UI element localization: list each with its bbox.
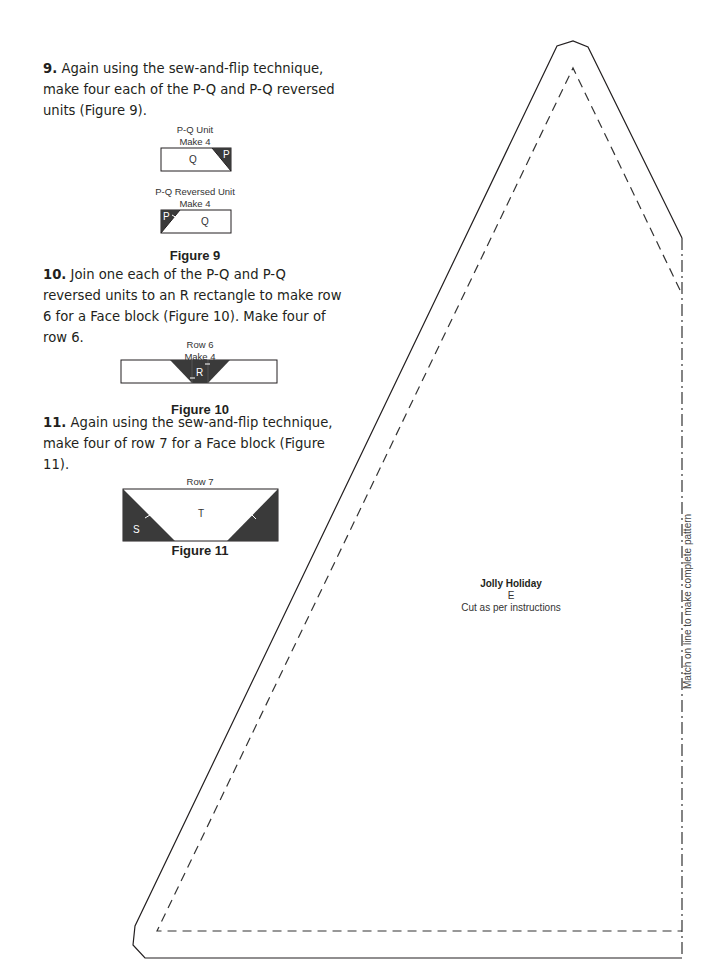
svg-text:T: T <box>198 508 204 519</box>
pq-reversed-diagram: P Q <box>161 210 231 233</box>
svg-text:P: P <box>163 211 170 222</box>
p-label: P <box>223 149 230 160</box>
row7-diagram: T S <box>123 489 278 541</box>
q-label: Q <box>189 154 197 165</box>
pattern-instruction: Cut as per instructions <box>421 602 601 614</box>
row6-diagram: R <box>121 360 277 383</box>
svg-text:Q: Q <box>201 216 209 227</box>
diagram-canvas: Q P P Q R T S <box>0 0 715 973</box>
pq-unit-diagram: Q P <box>161 148 231 171</box>
pattern-piece: E <box>421 590 601 602</box>
pattern-name: Jolly Holiday <box>421 578 601 590</box>
svg-text:R: R <box>196 367 203 378</box>
pattern-label: Jolly Holiday E Cut as per instructions <box>421 578 601 614</box>
match-line-note: Match on line to make complete pattern <box>682 514 693 689</box>
svg-text:S: S <box>133 524 140 535</box>
